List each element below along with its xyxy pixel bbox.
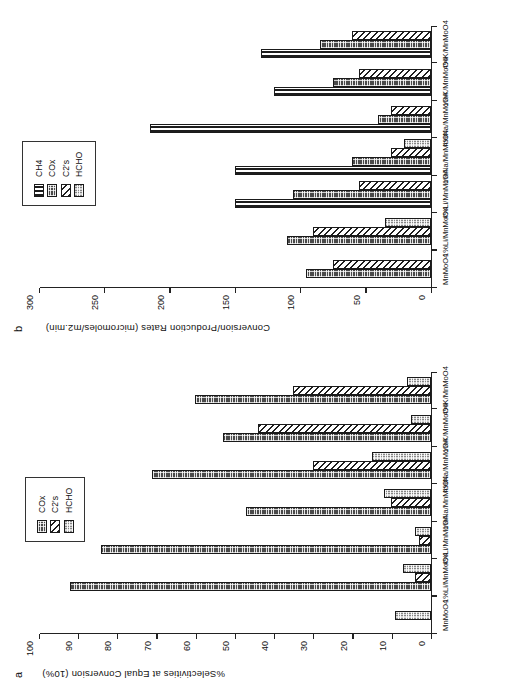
- bar-c2s: [258, 424, 430, 433]
- panel-b-y-axis: [40, 287, 432, 288]
- x-tick: [432, 633, 437, 634]
- x-tick: [432, 372, 437, 373]
- x-tick: [432, 558, 437, 559]
- bar-group: [101, 527, 430, 554]
- y-tick-label: 40: [260, 641, 270, 651]
- legend-item: HCHO: [74, 152, 84, 197]
- legend-swatch-hcho-icon: [74, 184, 84, 197]
- y-tick: [39, 634, 40, 639]
- legend-item: HCHO: [64, 488, 74, 533]
- bar-c2s: [415, 573, 431, 582]
- x-tick: [432, 483, 437, 484]
- x-tick: [432, 62, 437, 63]
- y-tick-label: 80: [103, 641, 113, 651]
- x-tick: [432, 521, 437, 522]
- legend-item: COx: [47, 152, 57, 197]
- bar-group: [395, 611, 430, 620]
- bar-hcho: [403, 564, 430, 573]
- y-tick-label: 10: [378, 641, 388, 651]
- bar-c2s: [293, 386, 430, 395]
- y-tick: [274, 634, 275, 639]
- legend-label-ch4: CH4: [34, 160, 44, 177]
- y-tick-label: 30: [299, 641, 309, 651]
- panel-a-plot-area: 0102030405060708090100MnMoO41%Li/MnMoO44…: [40, 372, 432, 634]
- y-tick-label: 150: [221, 295, 231, 310]
- bar-group: [274, 69, 431, 96]
- panel-b-plot-area: 050100150200250300MnMoO41%Li/MnMoO44%Li/…: [40, 26, 432, 288]
- panel-a-letter: a: [12, 672, 24, 678]
- bar-group: [152, 452, 430, 479]
- y-tick: [365, 288, 366, 293]
- y-tick: [431, 288, 432, 293]
- bar-c2s: [313, 227, 431, 236]
- x-tick: [432, 137, 437, 138]
- y-tick: [431, 634, 432, 639]
- bar-cox: [195, 395, 430, 404]
- y-tick-label: 0: [417, 641, 427, 646]
- y-tick-label: 100: [25, 641, 35, 656]
- bar-hcho: [385, 218, 431, 227]
- bar-ch4: [274, 87, 431, 96]
- x-category-label: MnMoO4: [441, 254, 450, 285]
- y-tick: [117, 634, 118, 639]
- bar-c2s: [391, 499, 430, 508]
- panel-a-axis-title: %Selectivities at Equal Conversion (10%): [42, 669, 225, 680]
- y-tick-label: 250: [90, 295, 100, 310]
- legend-label-hcho: HCHO: [64, 488, 74, 513]
- x-tick: [432, 212, 437, 213]
- legend-swatch-c2s-icon: [50, 520, 60, 533]
- bar-cox: [306, 269, 430, 278]
- bar-c2s: [391, 148, 430, 157]
- x-tick: [432, 26, 437, 27]
- bar-hcho: [372, 452, 431, 461]
- bar-cox: [293, 190, 430, 199]
- bar-group: [261, 31, 431, 58]
- y-tick: [196, 634, 197, 639]
- x-tick: [432, 287, 437, 288]
- bar-c2s: [359, 181, 431, 190]
- bar-c2s: [391, 106, 430, 115]
- y-tick-label: 300: [25, 295, 35, 310]
- bar-group: [195, 377, 430, 404]
- bar-c2s: [333, 260, 431, 269]
- x-tick: [432, 249, 437, 250]
- legend-panel-a: COx C2's HCHO: [25, 477, 85, 542]
- bar-hcho: [411, 415, 431, 424]
- y-tick-label: 0: [417, 295, 427, 300]
- y-tick: [313, 634, 314, 639]
- y-tick: [392, 634, 393, 639]
- bar-cox: [246, 508, 430, 517]
- panel-a-y-axis: [40, 633, 432, 634]
- bar-cox: [333, 78, 431, 87]
- x-category-label: 4%K/MnMoO4: [441, 366, 450, 415]
- bar-c2s: [359, 69, 431, 78]
- panel-b-letter: b: [12, 326, 24, 332]
- y-tick-label: 60: [182, 641, 192, 651]
- legend-swatch-c2s-icon: [61, 184, 71, 197]
- bar-cox: [320, 40, 431, 49]
- bar-group: [287, 218, 431, 245]
- bar-c2s: [352, 31, 430, 40]
- y-tick-label: 70: [143, 641, 153, 651]
- bar-group: [223, 415, 431, 442]
- legend-item: C2's: [61, 152, 71, 197]
- y-tick-label: 50: [352, 295, 362, 305]
- y-tick: [39, 288, 40, 293]
- bar-cox: [378, 115, 430, 124]
- legend-swatch-ch4-icon: [34, 184, 44, 197]
- legend-item: COx: [37, 488, 47, 533]
- legend-item: CH4: [34, 152, 44, 197]
- legend-label-hcho: HCHO: [74, 152, 84, 177]
- bar-cox: [352, 157, 430, 166]
- y-tick-label: 200: [156, 295, 166, 310]
- bar-cox: [287, 236, 431, 245]
- bar-ch4: [261, 49, 431, 58]
- y-tick: [156, 634, 157, 639]
- legend-swatch-hcho-icon: [64, 520, 74, 533]
- y-tick-label: 90: [64, 641, 74, 651]
- x-tick: [432, 595, 437, 596]
- bar-hcho: [415, 527, 431, 536]
- bar-group: [235, 139, 431, 175]
- legend-item: C2's: [50, 488, 60, 533]
- y-tick: [352, 634, 353, 639]
